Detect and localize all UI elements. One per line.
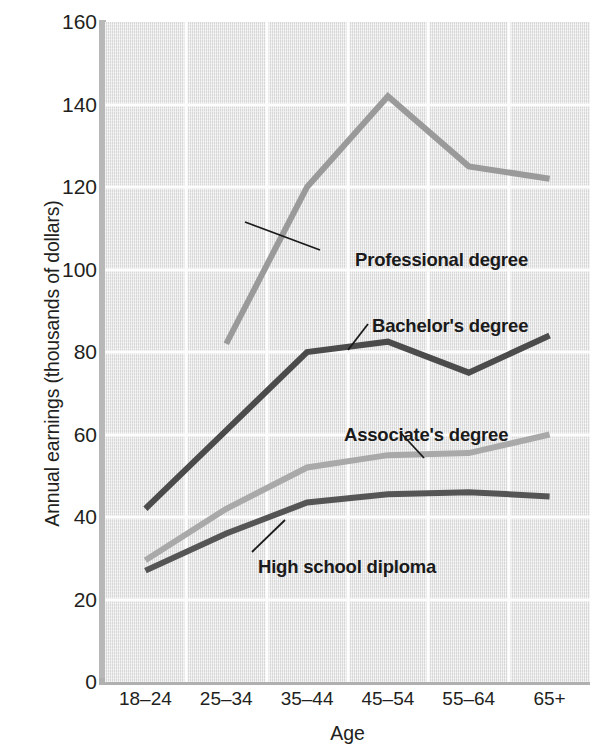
plot-area: Professional degreeBachelor's degreeAsso…	[105, 22, 590, 682]
y-tick-label: 100	[0, 258, 97, 282]
x-tick-label: 45–54	[361, 688, 414, 710]
y-tick-label: 0	[0, 670, 97, 694]
y-tick-label: 80	[0, 340, 97, 364]
series-label: Associate's degree	[344, 424, 508, 446]
line-chart: Annual earnings (thousands of dollars) 0…	[0, 0, 594, 756]
x-tick-label: 25–34	[200, 688, 253, 710]
series-lines	[105, 22, 590, 682]
y-tick-label: 120	[0, 175, 97, 199]
x-tick-label: 65+	[533, 688, 565, 710]
x-tick-label: 55–64	[442, 688, 495, 710]
x-tick-label: 18–24	[119, 688, 172, 710]
y-tick-label: 40	[0, 505, 97, 529]
series-label: Bachelor's degree	[372, 315, 528, 337]
y-tick-label: 20	[0, 588, 97, 612]
series-line	[226, 96, 549, 344]
y-tick-label: 160	[0, 10, 97, 34]
y-axis-tick-labels: 020406080100120140160	[0, 0, 97, 756]
x-tick-label: 35–44	[281, 688, 334, 710]
x-axis-tick-labels: 18–2425–3435–4445–5455–6465+	[105, 688, 590, 718]
series-label: High school diploma	[258, 556, 436, 578]
series-line	[145, 336, 549, 509]
x-axis-title: Age	[105, 722, 590, 745]
y-tick-label: 60	[0, 423, 97, 447]
y-tick-label: 140	[0, 93, 97, 117]
series-label: Professional degree	[355, 249, 528, 271]
